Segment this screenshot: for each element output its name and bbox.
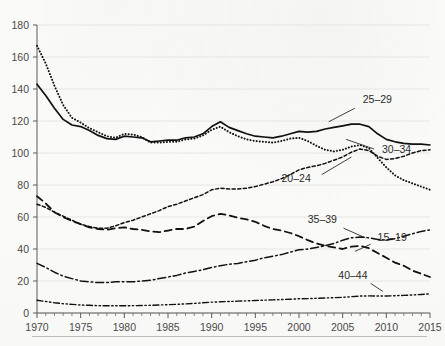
series-label-25-29: 25–29 [363,93,392,105]
page-bottom-rule [32,336,427,337]
series-label-20-24: 20–24 [282,172,311,184]
series-leader-35-39 [344,228,366,238]
series-leader-25-29 [329,108,355,122]
series-label-30-34: 30–34 [382,143,411,155]
gridlines-group [37,25,430,313]
series-line-15-19 [37,196,430,277]
y-tick-label-0: 0 [23,307,29,319]
x-tick-label-1995: 1995 [244,321,268,333]
series-line-20-24 [37,46,430,190]
y-tick-label-160: 160 [11,51,29,63]
x-tick-label-2015: 2015 [418,321,442,333]
y-tick-label-20: 20 [17,275,29,287]
x-tick-label-1985: 1985 [156,321,180,333]
y-tick-label-120: 120 [11,115,29,127]
series-label-35-39: 35–39 [308,213,337,225]
x-tick-label-1980: 1980 [113,321,137,333]
series-label-40-44: 40–44 [338,269,367,281]
x-tick-label-1970: 1970 [25,321,49,333]
series-line-35-39 [37,230,430,283]
x-tick-label-2000: 2000 [287,321,311,333]
series-labels-group: 25–2920–2430–3415–1935–3940–44 [282,93,412,291]
x-axis-group: 1970197519801985199019952000200520102015 [25,313,442,333]
y-axis-group: 020406080100120140160180 [11,19,37,319]
y-tick-label-180: 180 [11,19,29,31]
series-label-15-19: 15–19 [378,231,407,243]
x-tick-label-1975: 1975 [69,321,93,333]
series-leader-40-44 [371,283,383,291]
x-tick-label-1990: 1990 [200,321,224,333]
chart-page: 020406080100120140160180 197019751980198… [0,0,445,346]
y-tick-label-40: 40 [17,243,29,255]
y-tick-label-140: 140 [11,83,29,95]
x-tick-label-2010: 2010 [375,321,399,333]
y-tick-label-60: 60 [17,211,29,223]
y-tick-label-100: 100 [11,147,29,159]
series-leader-30-34 [346,139,374,149]
series-line-40-44 [37,294,430,306]
x-tick-label-2005: 2005 [331,321,355,333]
fertility-rate-line-chart: 020406080100120140160180 197019751980198… [0,0,445,346]
y-tick-label-80: 80 [17,179,29,191]
data-series-group [37,46,430,306]
